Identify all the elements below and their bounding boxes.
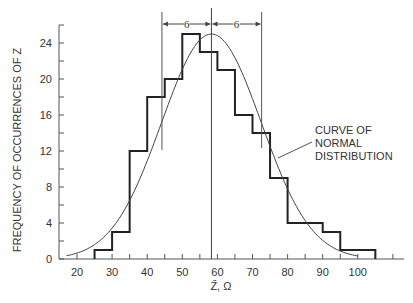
- sigma-right-label: 6: [234, 18, 240, 30]
- y-tick-label: 20: [40, 73, 52, 85]
- x-tick-label: 90: [317, 266, 329, 278]
- curve-label-line: CURVE OF: [315, 124, 372, 136]
- x-tick-label: 50: [176, 266, 188, 278]
- y-axis-label: FREQUENCY OF OCCURRENCES OF Z: [11, 47, 23, 252]
- annotations: 66CURVE OFNORMALDISTRIBUTION: [162, 8, 393, 259]
- x-tick-label: 80: [281, 266, 293, 278]
- curve-label-line: NORMAL: [315, 137, 362, 149]
- y-tick-label: 4: [46, 217, 52, 229]
- x-axis-label: Z̄, Ω: [210, 280, 231, 292]
- x-tick-label: 30: [106, 266, 118, 278]
- y-tick-label: 16: [40, 109, 52, 121]
- sigma-left-label: 6: [184, 18, 190, 30]
- x-tick-label: 40: [141, 266, 153, 278]
- x-tick-label: 70: [246, 266, 258, 278]
- x-tick-label: 60: [211, 266, 223, 278]
- x-tick-label: 100: [349, 266, 367, 278]
- y-tick-label: 0: [46, 253, 52, 265]
- y-tick-label: 8: [46, 181, 52, 193]
- y-tick-label: 12: [40, 145, 52, 157]
- x-tick-label: 20: [71, 266, 83, 278]
- curve-label-line: DISTRIBUTION: [315, 150, 393, 162]
- curve-label-leader: [278, 142, 312, 158]
- histogram-chart: 048121620242030405060708090100Z̄, ΩFREQU…: [0, 0, 413, 303]
- y-tick-label: 24: [40, 37, 52, 49]
